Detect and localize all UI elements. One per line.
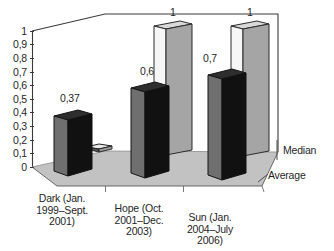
y-tick-label-1: 1 [2, 26, 27, 37]
y-tick-mark-1 [30, 31, 34, 32]
y-tick-label-04: 0,4 [2, 107, 27, 118]
y-tick-mark-01 [30, 153, 34, 154]
data-label-average-dark: 0,37 [60, 93, 80, 104]
y-tick-label-06: 0,6 [2, 80, 27, 91]
legend-item-average: Average [268, 170, 306, 181]
y-tick-mark-0 [30, 167, 34, 168]
floor-tick-3 [262, 186, 264, 192]
y-tick-mark-04 [30, 112, 34, 113]
data-label-median-sun: 1 [247, 7, 253, 18]
y-tick-label-08: 0,8 [2, 53, 27, 64]
y-tick-label-07: 0,7 [2, 67, 27, 78]
data-label-average-hope: 0,6 [140, 66, 154, 77]
y-tick-mark-03 [30, 126, 34, 127]
y-tick-mark-09 [30, 44, 34, 45]
y-tick-label-09: 0,9 [2, 39, 27, 50]
chart-3d-bar: 1 0,9 0,8 0,7 0,6 0,5 0,4 0,3 0,2 0,1 0 … [0, 0, 334, 251]
y-tick-label-02: 0,2 [2, 135, 27, 146]
data-label-average-sun: 0,7 [203, 53, 217, 64]
bar-average-hope [131, 82, 169, 178]
y-tick-label-01: 0,1 [2, 148, 27, 159]
y-tick-label-0: 0 [2, 162, 27, 173]
category-label-sun-line3: 2006) [163, 235, 257, 247]
y-tick-label-05: 0,5 [2, 94, 27, 105]
legend-item-median: Median [283, 145, 316, 156]
bar-average-dark [54, 110, 92, 176]
y-tick-mark-08 [30, 58, 34, 59]
y-tick-label-03: 0,3 [2, 121, 27, 132]
data-label-median-hope: 1 [170, 7, 176, 18]
category-label-sun-line1: Sun (Jan. [163, 212, 257, 224]
y-tick-mark-02 [30, 140, 34, 141]
y-tick-mark-05 [30, 99, 34, 100]
y-tick-mark-07 [30, 72, 34, 73]
y-tick-mark-06 [30, 85, 34, 86]
bar-average-sun [208, 69, 246, 180]
category-label-sun: Sun (Jan. 2004–July 2006) [163, 212, 257, 247]
